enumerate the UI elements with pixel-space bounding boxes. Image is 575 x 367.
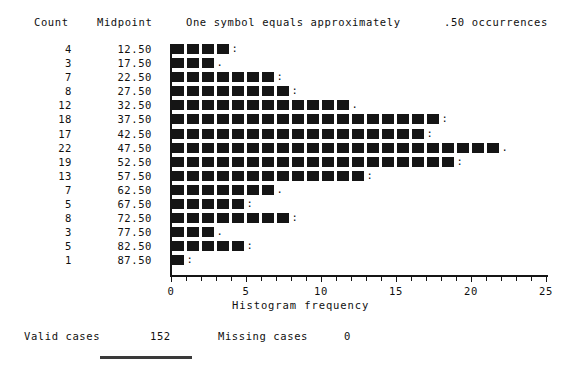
half-symbol-marker: . — [217, 227, 220, 237]
histogram-row: 762.50. — [0, 183, 575, 197]
histogram-row: 872.50: — [0, 211, 575, 225]
histogram-row: 582.50: — [0, 239, 575, 253]
row-midpoint: 57.50 — [90, 169, 152, 183]
x-axis-tick — [531, 276, 532, 281]
half-symbol-marker: : — [457, 157, 460, 167]
x-axis-title: Histogram frequency — [232, 299, 369, 311]
half-symbol-marker: . — [502, 143, 505, 153]
x-axis-tick-label: 25 — [539, 285, 553, 297]
histogram-row: 567.50: — [0, 197, 575, 211]
row-count: 3 — [24, 56, 72, 70]
histogram-row: 317.50. — [0, 56, 575, 70]
row-midpoint: 17.50 — [90, 56, 152, 70]
x-axis-tick — [186, 276, 187, 281]
x-axis-tick-label: 20 — [464, 285, 478, 297]
x-axis-tick — [246, 276, 247, 282]
row-count: 7 — [24, 183, 72, 197]
row-count: 4 — [24, 42, 72, 56]
x-axis-tick-label: 0 — [168, 285, 175, 297]
histogram-row: 1837.50: — [0, 112, 575, 126]
x-axis-line — [170, 275, 548, 277]
row-plot-area: . — [172, 98, 562, 112]
histogram-output-page: Count Midpoint One symbol equals approxi… — [0, 0, 575, 367]
x-axis-tick — [486, 276, 487, 281]
row-midpoint: 47.50 — [90, 141, 152, 155]
row-count: 19 — [24, 155, 72, 169]
histogram-row: 1357.50: — [0, 169, 575, 183]
x-axis-tick — [411, 276, 412, 281]
x-axis-tick — [216, 276, 217, 281]
histogram-bar — [172, 255, 184, 265]
histogram-bar — [172, 213, 289, 223]
row-count: 18 — [24, 112, 72, 126]
histogram-bar — [172, 86, 289, 96]
x-axis-tick — [201, 276, 202, 281]
row-count: 22 — [24, 141, 72, 155]
row-midpoint: 22.50 — [90, 70, 152, 84]
row-midpoint: 37.50 — [90, 112, 152, 126]
histogram-bar — [172, 157, 454, 167]
half-symbol-marker: : — [427, 129, 430, 139]
row-midpoint: 62.50 — [90, 183, 152, 197]
row-plot-area: : — [172, 42, 562, 56]
row-count: 12 — [24, 98, 72, 112]
row-plot-area: : — [172, 211, 562, 225]
x-axis-tick — [546, 276, 547, 282]
histogram-row: 1232.50. — [0, 98, 575, 112]
row-plot-area: : — [172, 169, 562, 183]
missing-cases-value: 0 — [344, 330, 351, 342]
histogram-bar — [172, 114, 439, 124]
histogram-row: 377.50. — [0, 225, 575, 239]
row-midpoint: 27.50 — [90, 84, 152, 98]
histogram-row: 722.50: — [0, 70, 575, 84]
row-plot-area: : — [172, 70, 562, 84]
valid-cases-value: 152 — [150, 330, 171, 342]
histogram-bar — [172, 100, 349, 110]
histogram-row: 2247.50. — [0, 141, 575, 155]
x-axis-tick — [516, 276, 517, 281]
symbol-scale-value: .50 occurrences — [444, 16, 548, 28]
x-axis-tick — [456, 276, 457, 281]
row-midpoint: 42.50 — [90, 127, 152, 141]
missing-cases-label: Missing cases — [218, 330, 308, 342]
row-midpoint: 87.50 — [90, 253, 152, 267]
x-axis-tick — [171, 276, 172, 282]
footer-divider — [100, 356, 192, 359]
x-axis-tick-label: 15 — [389, 285, 403, 297]
row-plot-area: . — [172, 183, 562, 197]
histogram-bar — [172, 199, 244, 209]
symbol-scale-note: One symbol equals approximately — [186, 16, 401, 28]
half-symbol-marker: : — [442, 114, 445, 124]
histogram-bar — [172, 143, 499, 153]
histogram-row: 827.50: — [0, 84, 575, 98]
histogram-bar — [172, 241, 244, 251]
half-symbol-marker: : — [292, 213, 295, 223]
histogram-bar — [172, 72, 274, 82]
row-count: 7 — [24, 70, 72, 84]
row-count: 5 — [24, 197, 72, 211]
row-midpoint: 72.50 — [90, 211, 152, 225]
row-midpoint: 67.50 — [90, 197, 152, 211]
histogram-bar — [172, 171, 364, 181]
half-symbol-marker: : — [187, 255, 190, 265]
x-axis-tick — [306, 276, 307, 281]
x-axis-tick — [231, 276, 232, 281]
half-symbol-marker: . — [352, 100, 355, 110]
histogram-row: 187.50: — [0, 253, 575, 267]
row-count: 5 — [24, 239, 72, 253]
x-axis-tick — [396, 276, 397, 282]
histogram-bar — [172, 44, 229, 54]
histogram-bar — [172, 185, 274, 195]
x-axis-tick — [276, 276, 277, 281]
row-midpoint: 77.50 — [90, 225, 152, 239]
row-count: 17 — [24, 127, 72, 141]
histogram-rows: 412.50:317.50.722.50:827.50:1232.50.1837… — [0, 42, 575, 268]
row-midpoint: 12.50 — [90, 42, 152, 56]
histogram-bar — [172, 58, 214, 68]
row-plot-area: : — [172, 155, 562, 169]
half-symbol-marker: : — [247, 241, 250, 251]
half-symbol-marker: : — [292, 86, 295, 96]
x-axis-tick — [471, 276, 472, 282]
row-count: 8 — [24, 84, 72, 98]
half-symbol-marker: . — [217, 58, 220, 68]
